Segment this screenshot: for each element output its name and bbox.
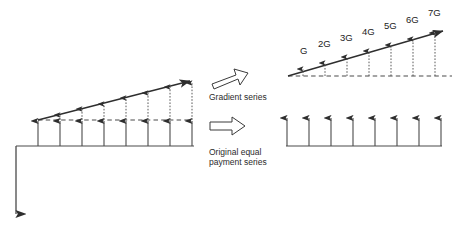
equal-payment-caption-line1: Original equal [209, 147, 262, 157]
gradient-value-label-5: 5G [384, 20, 397, 31]
gradient-panel-slope-line [288, 31, 443, 76]
gradient-series-caption: Gradient series [209, 92, 267, 102]
equal-payment-panel-arrows [287, 118, 441, 146]
equal-payment-block-arrow-icon [210, 117, 245, 135]
panel-gradient-series: G 2G 3G 4G 5G 6G 7G [288, 7, 452, 76]
gradient-value-label-7: 7G [428, 7, 441, 18]
panel-equal-payment-series [286, 118, 442, 146]
gradient-envelope-line [38, 81, 190, 120]
gradient-value-label-6: 6G [406, 14, 419, 25]
gradient-value-label-4: 4G [362, 26, 375, 37]
gradient-value-label-3: 3G [340, 32, 353, 43]
gradient-value-label-2: 2G [318, 38, 331, 49]
gradient-series-block-arrow-icon [212, 69, 248, 89]
gradient-panel-value-labels: G 2G 3G 4G 5G 6G 7G [300, 7, 441, 56]
combined-gradient-increment-arrows [60, 83, 192, 120]
panel-annotations: Gradient series Original equal payment s… [209, 69, 267, 167]
gradient-value-label-1: G [300, 45, 307, 56]
diagram-canvas: Gradient series Original equal payment s… [0, 0, 458, 234]
equal-payment-caption-line2: payment series [209, 157, 267, 167]
panel-combined-series [16, 81, 194, 214]
gradient-series-diagram: Gradient series Original equal payment s… [0, 0, 458, 234]
combined-equal-payment-arrows [38, 121, 192, 146]
